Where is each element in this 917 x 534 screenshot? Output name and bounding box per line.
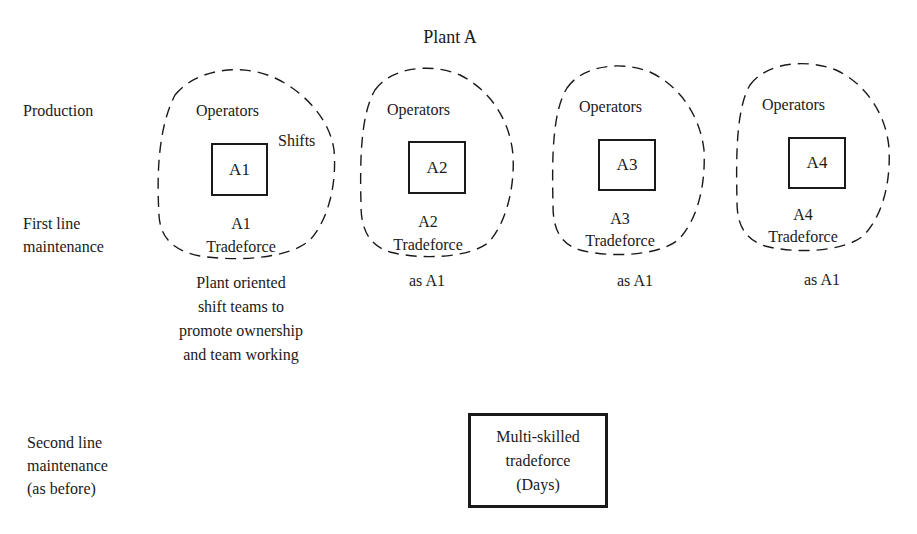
row-label-production: Production	[23, 102, 93, 120]
plant-a3-operators-label: Operators	[579, 98, 642, 116]
multi-skilled-box-line-2: tradeforce	[506, 449, 571, 473]
plant-unit-a4-box: A4	[788, 137, 846, 189]
plant-a3-tradeforce-label: Tradeforce	[585, 232, 655, 250]
plant-unit-a2-label: A2	[427, 158, 448, 178]
multi-skilled-box-line-1: Multi-skilled	[496, 425, 580, 449]
row-label-first-line-1: First line	[23, 215, 80, 233]
plant-a4-tradeforce-label: Tradeforce	[768, 228, 838, 246]
plant-a1-tradeforce-unit: A1	[231, 215, 251, 233]
plant-a2-tradeforce-label: Tradeforce	[393, 236, 463, 254]
plant-unit-a4-label: A4	[807, 153, 828, 173]
plant-a1-note-line-3: promote ownership	[179, 322, 303, 340]
row-label-second-line-3: (as before)	[27, 480, 96, 498]
plant-unit-a1-box: A1	[211, 143, 268, 196]
plant-unit-a1-label: A1	[229, 160, 250, 180]
plant-a2-tradeforce-unit: A2	[418, 213, 438, 231]
plant-a3-tradeforce-unit: A3	[610, 210, 630, 228]
plant-a1-note-line-2: shift teams to	[198, 298, 284, 316]
plant-a1-operators-label: Operators	[196, 102, 259, 120]
plant-a1-note-line-4: and team working	[183, 346, 299, 364]
plant-unit-a2-box: A2	[408, 141, 466, 194]
plant-a3-note: as A1	[617, 272, 653, 290]
multi-skilled-tradeforce-box: Multi-skilled tradeforce (Days)	[468, 413, 608, 508]
plant-a4-note: as A1	[804, 271, 840, 289]
plant-a2-operators-label: Operators	[387, 101, 450, 119]
plant-a1-tradeforce-label: Tradeforce	[206, 238, 276, 256]
diagram-canvas	[0, 0, 917, 534]
plant-unit-a3-label: A3	[617, 155, 638, 175]
row-label-first-line-2: maintenance	[23, 238, 104, 256]
diagram-title: Plant A	[423, 27, 477, 47]
plant-a1-note-line-1: Plant oriented	[196, 274, 285, 292]
plant-a4-operators-label: Operators	[762, 96, 825, 114]
multi-skilled-box-line-3: (Days)	[516, 473, 560, 497]
plant-unit-a3-box: A3	[598, 139, 656, 191]
plant-a1-shifts-label: Shifts	[278, 132, 315, 150]
row-label-second-line-2: maintenance	[27, 457, 108, 475]
plant-a2-note: as A1	[409, 272, 445, 290]
row-label-second-line-1: Second line	[27, 434, 102, 452]
plant-a4-tradeforce-unit: A4	[793, 206, 813, 224]
